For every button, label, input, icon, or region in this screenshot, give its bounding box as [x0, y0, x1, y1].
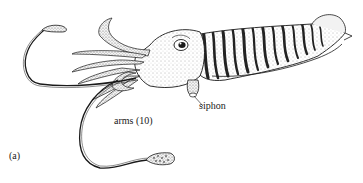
siphon-label: siphon: [199, 101, 226, 111]
cephalopod-illustration: [0, 0, 363, 183]
panel-label: (a): [9, 151, 20, 161]
cephalopod-figure: siphon arms (10) (a): [0, 0, 363, 183]
head: [135, 30, 205, 88]
arms-label: arms (10): [114, 116, 153, 126]
mantle: [195, 15, 352, 81]
arms: [72, 18, 150, 108]
